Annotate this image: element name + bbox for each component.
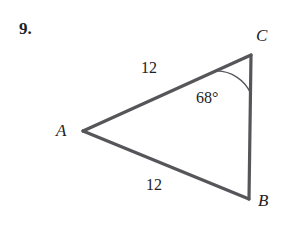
side-length-label-ab: 12: [146, 177, 162, 193]
vertex-label-b: B: [258, 192, 268, 209]
side-ac-line: [83, 55, 251, 131]
angle-measure-label-c: 68°: [196, 90, 218, 106]
figure-page: 9. A B C 12 12 68°: [0, 0, 288, 229]
triangle-figure: [0, 0, 288, 229]
vertex-label-a: A: [56, 122, 66, 139]
side-ab-line: [83, 131, 249, 199]
angle-arc-c-icon: [217, 71, 251, 93]
vertex-label-c: C: [256, 27, 267, 44]
side-length-label-ac: 12: [141, 60, 157, 76]
side-cb-line: [249, 55, 251, 199]
problem-number-label: 9.: [19, 20, 32, 37]
